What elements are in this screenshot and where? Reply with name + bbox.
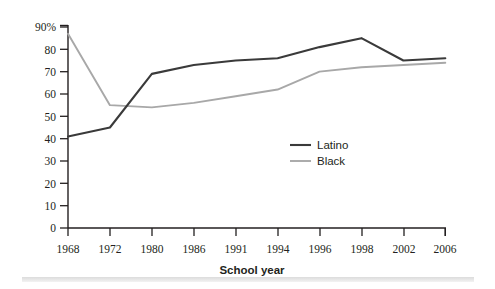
x-tick-label: 1996 xyxy=(309,243,332,255)
x-tick-label-group: 1968 1972 1980 1986 1991 1994 1996 1998 … xyxy=(57,243,457,255)
legend-label-latino: Latino xyxy=(317,139,348,151)
y-tick-label: 40 xyxy=(45,133,57,145)
legend-label-black: Black xyxy=(317,155,345,167)
y-tick-label: 60 xyxy=(45,88,57,100)
x-tick-label: 2006 xyxy=(434,243,457,255)
y-tick-label: 80 xyxy=(45,44,57,56)
series-line-latino xyxy=(68,38,445,136)
x-tick-label: 1972 xyxy=(99,243,122,255)
x-tick-label: 1991 xyxy=(225,243,248,255)
y-tick-label: 30 xyxy=(45,155,57,167)
y-tick-label: 0 xyxy=(50,222,56,234)
chart-canvas: 90% 80 70 60 50 40 30 20 10 0 1968 xyxy=(0,0,495,289)
x-tick-label: 1998 xyxy=(351,243,374,255)
line-chart: 90% 80 70 60 50 40 30 20 10 0 1968 xyxy=(0,0,495,289)
y-tick-label-group: 90% 80 70 60 50 40 30 20 10 0 xyxy=(35,21,57,234)
axis-group xyxy=(60,25,446,236)
x-tick-group xyxy=(68,228,445,236)
x-tick-label: 1994 xyxy=(267,243,290,255)
x-tick-label: 1980 xyxy=(141,243,164,255)
series-group xyxy=(68,34,445,137)
y-tick-label: 50 xyxy=(45,111,57,123)
y-tick-group xyxy=(60,27,68,228)
x-tick-label: 2002 xyxy=(393,243,416,255)
legend: Latino Black xyxy=(290,139,348,167)
y-tick-label: 10 xyxy=(45,200,57,212)
y-tick-label: 70 xyxy=(45,66,57,78)
series-line-black xyxy=(68,34,445,108)
x-tick-label: 1968 xyxy=(57,243,80,255)
x-tick-label: 1986 xyxy=(183,243,206,255)
bottom-divider-bar xyxy=(22,277,474,282)
y-tick-label: 20 xyxy=(45,178,57,190)
y-tick-label: 90% xyxy=(35,21,57,33)
x-axis-title: School year xyxy=(219,264,285,276)
